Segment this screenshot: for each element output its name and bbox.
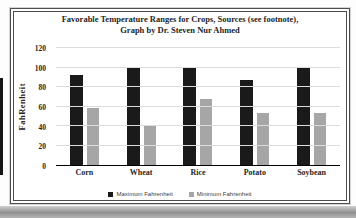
- max-bar-corn: [70, 75, 83, 165]
- max-bar-wheat: [127, 68, 140, 166]
- y-tick-0: 0: [42, 162, 46, 171]
- chart-title-line-2: Graph by Dr. Steven Nur Ahmed: [14, 25, 346, 36]
- legend-label: Maximum Fahrenheit: [116, 191, 172, 197]
- plot-area: [56, 48, 340, 166]
- chart-frame: Favorable Temperature Ranges for Crops, …: [10, 8, 350, 204]
- x-label-corn: Corn: [56, 168, 113, 180]
- screenshot: Favorable Temperature Ranges for Crops, …: [0, 0, 356, 218]
- x-label-wheat: Wheat: [113, 168, 170, 180]
- min-bar-rice: [200, 99, 212, 165]
- legend-swatch-icon: [108, 192, 113, 197]
- y-tick-120: 120: [35, 44, 46, 53]
- gridline-20: [56, 145, 340, 146]
- x-label-rice: Rice: [170, 168, 227, 180]
- x-label-soybean: Soybean: [283, 168, 340, 180]
- gridline-40: [56, 125, 340, 126]
- x-label-potato: Potato: [226, 168, 283, 180]
- x-axis-labels: CornWheatRicePotatoSoybean: [56, 168, 340, 180]
- min-bar-corn: [87, 108, 99, 165]
- min-bar-soybean: [314, 113, 326, 165]
- legend-item-minimum: Minimum Fahrenheit: [189, 191, 252, 197]
- gridline-120: [56, 47, 340, 48]
- y-tick-100: 100: [35, 63, 46, 72]
- gridline-60: [56, 106, 340, 107]
- gridline-100: [56, 67, 340, 68]
- y-tick-20: 20: [39, 142, 47, 151]
- min-bar-potato: [257, 113, 269, 165]
- max-bar-potato: [240, 80, 253, 165]
- chart-title-line-1: Favorable Temperature Ranges for Crops, …: [14, 14, 346, 25]
- legend: Maximum FahrenheitMinimum Fahrenheit: [14, 191, 346, 197]
- photo-edge-artifact: [0, 78, 3, 175]
- max-bar-rice: [183, 68, 196, 166]
- y-tick-60: 60: [39, 103, 47, 112]
- gridline-80: [56, 86, 340, 87]
- y-tick-80: 80: [39, 83, 47, 92]
- y-tick-40: 40: [39, 122, 47, 131]
- y-axis-labels: 020406080100120: [14, 48, 52, 166]
- chart-title: Favorable Temperature Ranges for Crops, …: [14, 14, 346, 36]
- legend-item-maximum: Maximum Fahrenheit: [108, 191, 172, 197]
- legend-label: Minimum Fahrenheit: [197, 191, 252, 197]
- max-bar-soybean: [297, 68, 310, 166]
- legend-swatch-icon: [189, 192, 194, 197]
- photo-bottom-band: [0, 206, 356, 218]
